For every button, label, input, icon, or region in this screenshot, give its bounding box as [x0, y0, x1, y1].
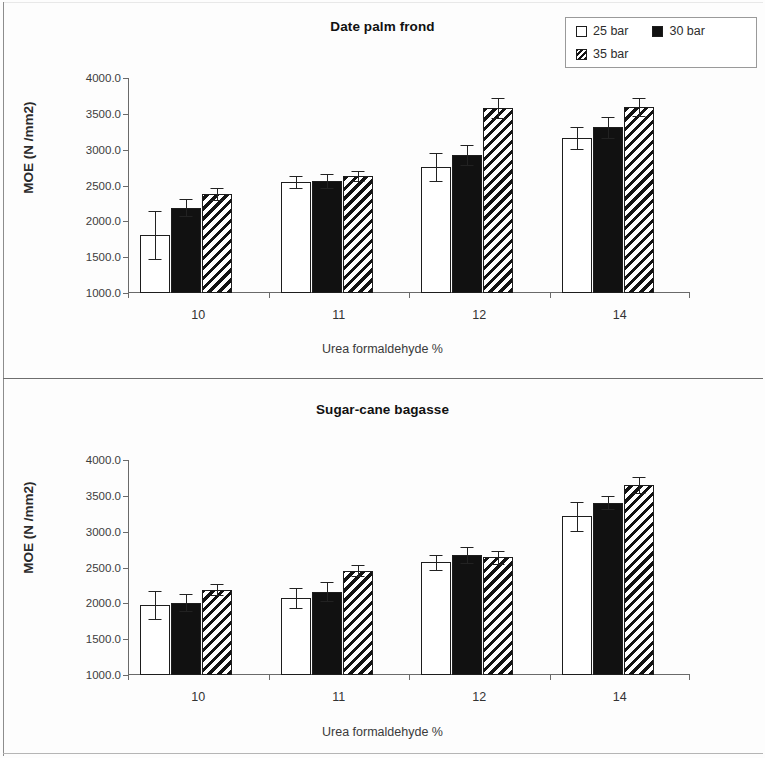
- error-bar-cap-lower: [351, 181, 364, 182]
- y-axis-tick-label: 4000.0: [86, 72, 121, 84]
- y-axis-tick: [123, 603, 128, 604]
- y-axis-tick: [123, 639, 128, 640]
- y-axis-tick-label: 1500.0: [86, 251, 121, 263]
- error-bar-cap-lower: [492, 118, 505, 119]
- legend-label-30-bar: 30 bar: [669, 24, 704, 38]
- x-axis-tick: [128, 293, 129, 298]
- error-bar: [639, 98, 640, 116]
- legend-label-35-bar: 35 bar: [593, 47, 628, 61]
- y-axis-tick: [123, 460, 128, 461]
- x-axis-label: Urea formaldehyde %: [0, 725, 765, 739]
- y-axis-tick-label: 2000.0: [86, 215, 121, 227]
- plot-area: 1000.01500.02000.02500.03000.03500.04000…: [128, 78, 690, 293]
- error-bar-cap-upper: [492, 551, 505, 552]
- error-bar-cap-lower: [351, 576, 364, 577]
- error-bar: [186, 199, 187, 215]
- hatched-square-icon: [576, 49, 587, 60]
- error-bar: [608, 117, 609, 139]
- x-axis-tick: [269, 675, 270, 680]
- error-bar: [358, 171, 359, 181]
- y-axis-tick: [123, 496, 128, 497]
- error-bar-cap-upper: [351, 565, 364, 566]
- y-axis-label: MOE (N /mm2): [21, 448, 36, 608]
- bar: [562, 516, 592, 675]
- error-bar: [498, 551, 499, 563]
- x-axis-tick-label: 12: [472, 308, 486, 322]
- bar: [593, 503, 623, 675]
- error-bar-cap-lower: [632, 493, 645, 494]
- open-square-icon: [576, 26, 587, 37]
- error-bar-cap-lower: [632, 116, 645, 117]
- x-axis-tick: [550, 293, 551, 298]
- error-bar-cap-lower: [601, 138, 614, 139]
- error-bar-cap-upper: [570, 127, 583, 128]
- error-bar-cap-lower: [492, 564, 505, 565]
- y-axis-tick: [123, 257, 128, 258]
- y-axis-tick-label: 3500.0: [86, 490, 121, 502]
- x-axis-tick-label: 14: [613, 308, 627, 322]
- bar: [562, 138, 592, 293]
- x-axis-tick-label: 10: [191, 690, 205, 704]
- x-axis-label: Urea formaldehyde %: [0, 342, 765, 356]
- error-bar-cap-lower: [320, 601, 333, 602]
- bar: [483, 557, 513, 675]
- legend-item-30-bar[interactable]: 30 bar: [652, 24, 704, 38]
- error-bar-cap-upper: [601, 496, 614, 497]
- legend: 25 bar 30 bar 35 bar: [565, 17, 757, 68]
- bar: [624, 107, 654, 293]
- x-axis-tick: [269, 293, 270, 298]
- x-axis-tick: [689, 293, 690, 298]
- y-axis-tick: [123, 186, 128, 187]
- error-bar-cap-upper: [570, 502, 583, 503]
- error-bar: [639, 477, 640, 493]
- y-axis-tick-label: 1000.0: [86, 669, 121, 681]
- error-bar: [217, 584, 218, 595]
- bar: [624, 485, 654, 675]
- y-axis-tick: [123, 568, 128, 569]
- error-bar-cap-upper: [430, 555, 443, 556]
- error-bar: [296, 588, 297, 608]
- error-bar: [467, 547, 468, 563]
- x-axis-tick-label: 11: [332, 690, 345, 704]
- y-axis-tick-label: 1000.0: [86, 287, 121, 299]
- error-bar-cap-lower: [601, 509, 614, 510]
- error-bar: [155, 211, 156, 258]
- filled-square-icon: [652, 26, 663, 37]
- legend-item-35-bar[interactable]: 35 bar: [576, 47, 628, 61]
- x-axis-tick: [550, 675, 551, 680]
- y-axis-tick: [123, 78, 128, 79]
- error-bar-cap-upper: [601, 117, 614, 118]
- error-bar: [155, 591, 156, 619]
- error-bar-cap-lower: [570, 149, 583, 150]
- error-bar-cap-upper: [492, 98, 505, 99]
- error-bar: [296, 176, 297, 188]
- y-axis-tick-label: 1500.0: [86, 633, 121, 645]
- bar: [202, 194, 232, 293]
- panel-divider-rule: [3, 378, 763, 379]
- chart-panel-date-palm-frond: Date palm frond MOE (N /mm2) Urea formal…: [0, 0, 765, 378]
- legend-row-1: 25 bar 30 bar: [576, 24, 705, 38]
- error-bar-cap-lower: [461, 165, 474, 166]
- y-axis-tick-label: 4000.0: [86, 454, 121, 466]
- error-bar-cap-lower: [430, 181, 443, 182]
- legend-row-2: 35 bar: [576, 47, 652, 61]
- y-axis-label: MOE (N /mm2): [21, 68, 36, 228]
- y-axis-tick-label: 3000.0: [86, 144, 121, 156]
- error-bar-cap-lower: [211, 200, 224, 201]
- bar: [452, 155, 482, 293]
- bar: [171, 603, 201, 675]
- error-bar: [577, 127, 578, 149]
- error-bar-cap-upper: [430, 153, 443, 154]
- error-bar-cap-lower: [180, 216, 193, 217]
- bar: [171, 208, 201, 293]
- error-bar-cap-upper: [289, 588, 302, 589]
- error-bar-cap-upper: [632, 98, 645, 99]
- error-bar-cap-upper: [211, 584, 224, 585]
- error-bar: [577, 502, 578, 531]
- x-axis-tick: [409, 293, 410, 298]
- legend-item-25-bar[interactable]: 25 bar: [576, 24, 628, 38]
- error-bar-cap-upper: [351, 171, 364, 172]
- error-bar: [436, 153, 437, 181]
- error-bar-cap-lower: [430, 570, 443, 571]
- bar: [421, 562, 451, 675]
